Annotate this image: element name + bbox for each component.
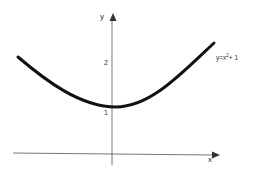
x-axis [13,153,214,155]
y-axis-arrow-icon [110,13,117,21]
x-axis-label: x [208,155,212,164]
y-tick-2: 2 [104,59,108,66]
chart: y x 2 1 y=x2+ 1 [0,0,253,180]
y-tick-1: 1 [104,109,108,116]
y-axis-label: y [100,12,104,21]
curve-label: y=x2+ 1 [216,53,238,62]
plot-area: y x 2 1 y=x2+ 1 [0,0,253,180]
curve-y-equals-x-squared-plus-1 [18,43,214,107]
x-axis-arrow-icon [212,152,220,159]
